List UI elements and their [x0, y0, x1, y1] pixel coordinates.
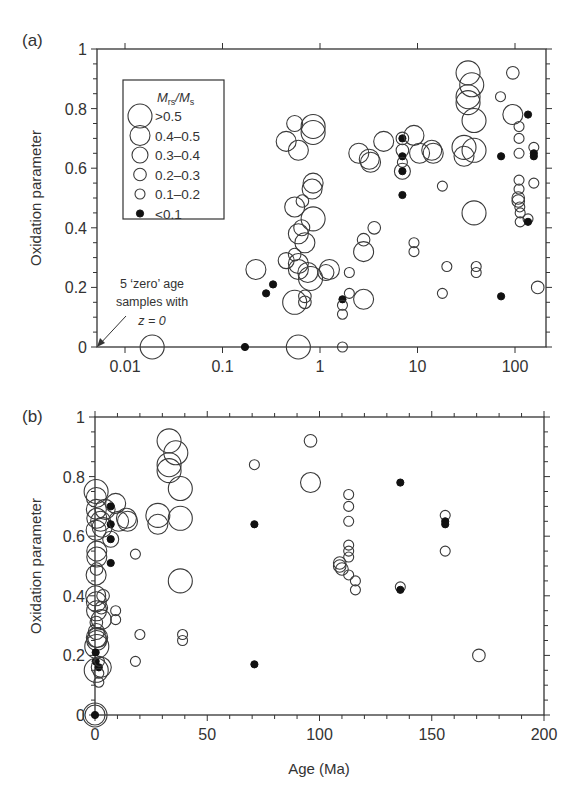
annotation-arrow: [99, 316, 126, 345]
data-point: [399, 191, 406, 198]
data-point: [440, 546, 450, 556]
data-point: [249, 460, 259, 470]
data-point: [404, 125, 424, 145]
x-tick-label: 0.01: [109, 358, 140, 375]
annotation-line-2: samples with: [116, 295, 188, 309]
y-tick-label: 1: [78, 41, 87, 58]
data-point: [251, 661, 258, 668]
data-point: [241, 343, 248, 350]
legend-label: 0.3–0.4: [155, 148, 201, 163]
legend-label: 0.2–0.3: [155, 168, 200, 183]
x-tick-label: 50: [198, 726, 216, 743]
y-tick-label: 0.8: [65, 101, 87, 118]
data-point: [97, 590, 110, 603]
figure: (a) 00.20.40.60.81 0.010.1110100 Oxidati…: [0, 0, 579, 797]
data-point: [344, 540, 354, 550]
legend-label: 0.4–0.5: [155, 129, 200, 144]
data-point: [514, 148, 524, 158]
data-point: [397, 586, 404, 593]
legend-label: <0.1: [155, 207, 182, 222]
y-tick-label: 0: [78, 339, 87, 356]
data-point: [288, 224, 308, 244]
data-point: [437, 288, 447, 298]
data-point: [168, 477, 192, 501]
data-point: [530, 153, 537, 160]
data-point: [471, 268, 481, 278]
legend-title: Mrs/Ms: [157, 90, 195, 107]
x-tick-label: 150: [418, 726, 445, 743]
legend-marker-icon: [136, 210, 143, 217]
panel-b: (b) 00.20.40.60.81 050100150200 Oxidatio…: [22, 407, 557, 777]
data-point: [529, 178, 539, 188]
data-point: [344, 546, 354, 556]
data-point: [168, 506, 192, 530]
data-point: [130, 549, 140, 559]
x-tick-label: 1: [316, 358, 325, 375]
data-point: [301, 207, 325, 231]
legend: Mrs/Ms >0.50.4–0.50.3–0.40.2–0.30.1–0.2<…: [123, 80, 224, 222]
annotation-line-3: z = 0: [137, 314, 165, 328]
annotation-line-1: 5 ‘zero’ age: [120, 277, 184, 291]
x-tick-label: 10: [409, 358, 427, 375]
y-tick-label: 0.6: [63, 528, 85, 545]
data-point: [397, 479, 404, 486]
data-point: [344, 501, 354, 511]
data-point: [368, 222, 381, 235]
panel-b-y-label: Oxidation parameter: [27, 498, 44, 634]
data-point: [344, 268, 354, 278]
data-point: [354, 289, 374, 309]
data-point: [357, 233, 370, 246]
data-point: [130, 656, 140, 666]
y-tick-label: 0.4: [63, 588, 85, 605]
legend-label: >0.5: [155, 109, 182, 124]
data-point: [495, 92, 505, 102]
data-point: [107, 559, 114, 566]
data-point: [442, 262, 452, 272]
data-point: [524, 111, 531, 118]
data-point: [497, 293, 504, 300]
data-point: [437, 181, 447, 191]
data-point: [301, 120, 325, 144]
y-tick-label: 0.4: [65, 220, 87, 237]
data-point: [399, 153, 406, 160]
data-point: [148, 514, 168, 534]
x-tick-label: 200: [531, 726, 558, 743]
panel-b-points: [83, 429, 485, 727]
data-point: [168, 569, 192, 593]
zero-age-annotation: 5 ‘zero’ age samples with z = 0: [97, 277, 188, 347]
y-tick-label: 0.6: [65, 160, 87, 177]
x-tick-label: 100: [502, 358, 529, 375]
data-point: [178, 636, 188, 646]
data-point: [507, 67, 520, 80]
data-point: [497, 153, 504, 160]
data-point: [473, 649, 486, 662]
data-point: [251, 521, 258, 528]
data-point: [456, 91, 480, 115]
panel-b-x-label: Age (Ma): [288, 760, 350, 777]
y-tick-label: 0.2: [63, 647, 85, 664]
data-point: [344, 516, 354, 526]
data-point: [512, 195, 525, 208]
data-point: [107, 536, 114, 543]
data-point: [107, 503, 114, 510]
data-point: [344, 489, 354, 499]
data-point: [354, 242, 374, 262]
data-point: [146, 503, 170, 527]
data-point: [301, 114, 325, 138]
data-point: [304, 435, 317, 448]
data-point: [86, 499, 106, 519]
y-tick-label: 0.8: [63, 469, 85, 486]
x-tick-label: 0: [91, 726, 100, 743]
panel-b-frame: [95, 417, 544, 715]
y-tick-label: 0.2: [65, 279, 87, 296]
data-point: [344, 288, 354, 298]
panel-a-y-label: Oxidation parameter: [27, 130, 44, 266]
y-tick-label: 1: [76, 409, 85, 426]
data-point: [462, 109, 486, 133]
x-tick-label: 100: [306, 726, 333, 743]
data-point: [524, 218, 531, 225]
data-point: [442, 521, 449, 528]
data-point: [178, 630, 188, 640]
data-point: [374, 131, 394, 151]
panel-a: (a) 00.20.40.60.81 0.010.1110100 Oxidati…: [22, 31, 552, 375]
